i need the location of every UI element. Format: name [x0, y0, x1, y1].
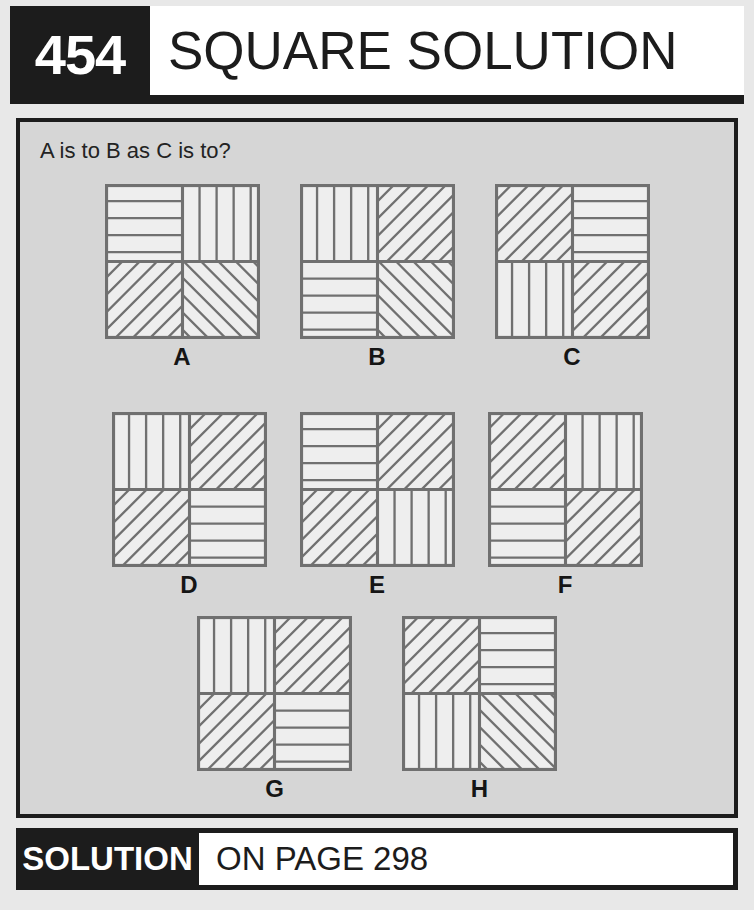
page-footer: SOLUTION ON PAGE 298: [16, 828, 738, 890]
figure-label-b: B: [368, 345, 385, 369]
puzzle-title: SQUARE SOLUTION: [168, 6, 677, 95]
figure-option-a[interactable]: A: [85, 184, 280, 369]
puzzle-number: 454: [10, 6, 150, 104]
figure-square-a: [105, 184, 260, 339]
figure-option-h[interactable]: H: [377, 616, 582, 801]
figure-square-f: [488, 412, 643, 567]
figure-option-b[interactable]: B: [280, 184, 475, 369]
solution-page-reference: ON PAGE 298: [216, 833, 428, 885]
figure-square-b: [300, 184, 455, 339]
figure-label-h: H: [471, 777, 488, 801]
premise-row: ABC: [20, 184, 734, 369]
figure-label-c: C: [563, 345, 580, 369]
page-header: 454 SQUARE SOLUTION: [10, 6, 744, 104]
figure-label-e: E: [369, 573, 385, 597]
figure-option-e[interactable]: E: [283, 412, 471, 597]
figure-label-g: G: [265, 777, 284, 801]
puzzle-question: A is to B as C is to?: [40, 138, 231, 164]
puzzle-panel: A is to B as C is to? ABC DEF GH: [16, 118, 738, 818]
options-row-2: GH: [20, 616, 734, 801]
header-shadow-bar: [150, 95, 744, 104]
figure-square-e: [300, 412, 455, 567]
figure-square-g: [197, 616, 352, 771]
figure-label-a: A: [173, 345, 190, 369]
figure-square-c: [495, 184, 650, 339]
figure-label-d: D: [180, 573, 197, 597]
options-row-1: DEF: [20, 412, 734, 597]
figure-option-d[interactable]: D: [95, 412, 283, 597]
figure-label-f: F: [558, 573, 573, 597]
figure-option-g[interactable]: G: [172, 616, 377, 801]
figure-square-d: [112, 412, 267, 567]
figure-option-c[interactable]: C: [475, 184, 670, 369]
solution-label: SOLUTION: [16, 828, 199, 890]
figure-square-h: [402, 616, 557, 771]
figure-option-f[interactable]: F: [471, 412, 659, 597]
